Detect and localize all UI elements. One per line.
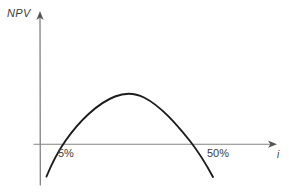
x-axis-label: i: [277, 150, 280, 160]
npv-curve: [47, 94, 214, 177]
x-tick-label-50-percent: 50%: [207, 148, 229, 159]
npv-chart-figure: NPV i 5% 50%: [0, 0, 289, 193]
x-tick-label-5-percent: 5%: [58, 148, 74, 159]
y-axis-label: NPV: [7, 8, 31, 19]
npv-chart-plot: [0, 0, 289, 193]
